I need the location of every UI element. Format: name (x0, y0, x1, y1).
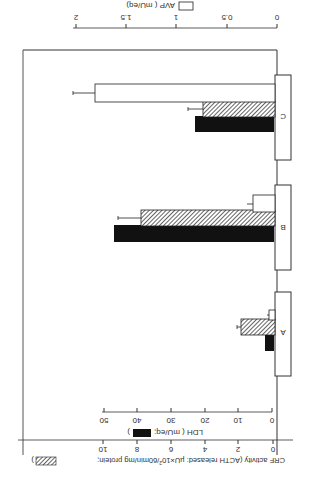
svg-text:8: 8 (134, 445, 139, 454)
svg-text:4: 4 (202, 445, 207, 454)
crf-legend-swatch (36, 457, 56, 465)
svg-text:2: 2 (235, 445, 240, 454)
svg-text:6: 6 (168, 445, 173, 454)
bar-group-a (237, 310, 275, 351)
category-box-b: B (275, 185, 291, 270)
crf-axis-label: CRF activity (ACTH released: µU×102/60mi… (97, 456, 285, 466)
avp-legend-swatch (179, 2, 193, 10)
bar-ldh-c (195, 116, 274, 132)
bar-group-b (114, 195, 275, 242)
svg-text:0.5: 0.5 (221, 13, 233, 22)
svg-text:1.5: 1.5 (120, 13, 132, 22)
bar-avp-a (269, 310, 275, 320)
svg-text:0: 0 (274, 13, 279, 22)
svg-text:30: 30 (166, 416, 175, 425)
ldh-axis: 0 10 20 30 40 50 LDH ( mU/eq; ) (99, 408, 274, 437)
svg-text:1: 1 (173, 13, 178, 22)
svg-text:2: 2 (73, 13, 78, 22)
bar-group-c (73, 84, 275, 132)
svg-text:): ) (127, 428, 130, 437)
bar-crf-c (203, 101, 275, 117)
bar-crf-a (241, 319, 275, 335)
svg-text:20: 20 (200, 416, 209, 425)
svg-text:0: 0 (269, 416, 274, 425)
svg-text:10: 10 (98, 445, 107, 454)
bar-avp-c (95, 84, 275, 102)
bar-chart: A B C (0, 0, 313, 480)
svg-text:10: 10 (233, 416, 242, 425)
avp-axis: 0 0.5 1 1.5 2 AVP ( mU/eq) (73, 1, 279, 28)
ldh-legend-swatch (133, 429, 151, 437)
category-box-a: A (275, 292, 291, 376)
category-label-b: B (280, 223, 285, 232)
avp-axis-label: AVP ( mU/eq) (126, 1, 175, 10)
svg-text:50: 50 (99, 416, 108, 425)
svg-text:40: 40 (132, 416, 141, 425)
bar-avp-b (253, 195, 275, 212)
category-box-c: C (275, 75, 291, 160)
svg-text:0: 0 (270, 445, 275, 454)
category-label-a: A (280, 328, 286, 337)
category-label-c: C (280, 112, 286, 121)
bar-ldh-b (114, 225, 274, 242)
rotated-figure: A B C (0, 0, 313, 480)
ldh-axis-label: LDH ( mU/eq; (154, 428, 203, 437)
crf-axis: 0 2 4 6 8 10 CRF activity (ACTH released… (18, 440, 293, 466)
bar-ldh-a (265, 333, 274, 351)
svg-text:): ) (31, 456, 34, 465)
